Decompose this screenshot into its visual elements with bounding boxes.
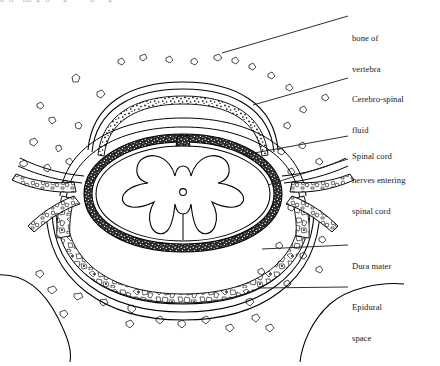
label-nerves-entering-spinal-cord: nerves entering spinal cord [352,155,405,237]
leader-bone-of-vertebra [222,16,348,53]
label-bone-of-vertebra-line1: bone of [352,33,381,43]
label-nerves-entering-line1: nerves entering [352,175,405,185]
leader-epidural-space [258,287,348,288]
label-cerebro-spinal-fluid-line1: Cerebro-spinal [352,94,404,104]
label-epidural-space-line2: space [352,333,382,343]
central-canal [180,189,187,196]
leader-cerebro-spinal-fluid [253,78,348,105]
spinal-cord-cross-section-figure: a ll pp g p g p g [0,0,440,366]
leader-dura-mater [262,245,348,249]
label-bone-of-vertebra-line2: vertebra [352,64,381,74]
nerve-root-left [12,158,84,232]
label-dura-mater-line1: Dura mater [352,261,391,271]
label-nerves-entering-line2: spinal cord [352,206,405,216]
label-epidural-space-line1: Epidural [352,302,382,312]
label-epidural-space: Epidural space [352,282,382,364]
